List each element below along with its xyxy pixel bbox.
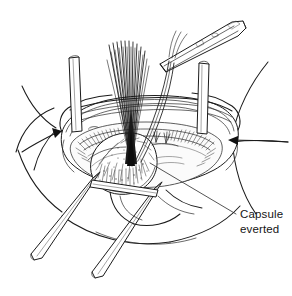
surgical-illustration-figure: Capsule everted: [0, 0, 292, 296]
illustration-canvas: Capsule everted: [0, 0, 292, 296]
capsule-everted-label-line2: everted: [240, 223, 279, 235]
retractor-post-right[interactable]: [197, 61, 209, 134]
capsule-everted-label-line1: Capsule: [240, 208, 283, 220]
